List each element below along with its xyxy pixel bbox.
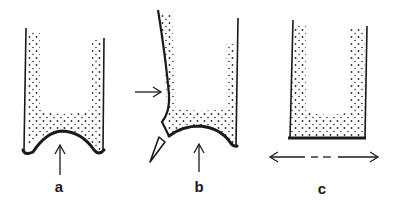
figure-a-label: a bbox=[55, 178, 63, 195]
figure-b-label: b bbox=[194, 178, 203, 195]
figure-b bbox=[135, 10, 238, 172]
figure-b-right-wall bbox=[236, 18, 238, 146]
figure-a-right-wall bbox=[103, 38, 104, 150]
figure-c-stipple bbox=[290, 24, 365, 136]
double-arrow-dashed-icon bbox=[270, 152, 378, 162]
figure-b-stipple bbox=[160, 14, 236, 144]
figure-c-label: c bbox=[318, 180, 326, 197]
figure-c bbox=[270, 20, 378, 162]
arrow-right-icon bbox=[135, 87, 161, 97]
figure-c-right-wall bbox=[365, 26, 367, 138]
figure-a-left-wall bbox=[24, 28, 26, 150]
arrow-up-icon bbox=[194, 144, 204, 172]
triangle-fragment-icon bbox=[150, 137, 165, 162]
diagram-canvas bbox=[0, 0, 397, 207]
figure-a-stipple bbox=[28, 32, 101, 152]
figure-a bbox=[23, 28, 104, 175]
arrow-up-icon bbox=[55, 145, 65, 175]
